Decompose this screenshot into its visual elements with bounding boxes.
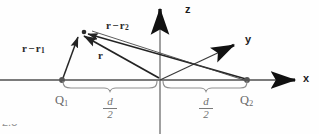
dimension-half-d-left: d 2 xyxy=(103,96,117,120)
vector-r-minus-r2-arrow xyxy=(88,34,246,79)
axis-label-x: x xyxy=(303,73,309,84)
vector-r-arrow xyxy=(84,36,159,78)
charge-q1-subscript: 1 xyxy=(64,98,68,108)
charge-label-q1: Q1 xyxy=(55,94,68,108)
y-axis xyxy=(160,45,234,80)
charge-q1-letter: Q xyxy=(55,93,64,107)
caption-fragment: 2.5 xyxy=(2,124,48,134)
charge-q2-letter: Q xyxy=(240,93,249,107)
vector-label-r: r xyxy=(98,50,103,61)
half-d-left-numerator: d xyxy=(103,96,117,109)
half-d-left-denominator: 2 xyxy=(103,109,117,121)
charge-q2-subscript: 2 xyxy=(249,98,253,108)
brace-half-d-left xyxy=(63,81,157,92)
vector-r2-subscript: 2 xyxy=(125,23,129,32)
vector-label-r-minus-r2: r−r2 xyxy=(106,20,129,32)
vector-r-minus-r1-arrow xyxy=(63,37,78,78)
axis-label-y: y xyxy=(245,34,251,45)
vector-r2-minus-sign: − xyxy=(111,19,120,31)
dimension-half-d-right: d 2 xyxy=(199,96,213,120)
charge-label-q2: Q2 xyxy=(240,94,253,108)
brace-half-d-right xyxy=(163,81,247,92)
vector-r-minus-r2-guide xyxy=(92,31,247,81)
vector-r1-subscript: 1 xyxy=(41,46,45,55)
diagram-canvas xyxy=(0,0,319,134)
half-d-right-denominator: 2 xyxy=(199,109,213,121)
axis-label-z: z xyxy=(185,4,191,15)
dipole-geometry-figure: z y x r−r1 r−r2 r Q1 Q2 d 2 d 2 2.5 xyxy=(0,0,319,134)
half-d-right-numerator: d xyxy=(199,96,213,109)
field-point-marker xyxy=(82,30,87,35)
charge-dot-q1 xyxy=(59,77,65,83)
vector-r1-minus-sign: − xyxy=(27,42,36,54)
vector-label-r-minus-r1: r−r1 xyxy=(22,43,45,55)
caption-fragment-text: 2.5 xyxy=(2,124,48,128)
